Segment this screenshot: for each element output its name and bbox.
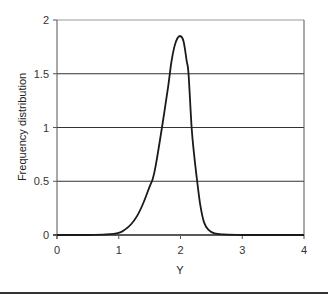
x-axis-title: Y bbox=[176, 264, 184, 276]
x-tick-label: 2 bbox=[177, 244, 183, 256]
x-tick-label: 0 bbox=[54, 244, 60, 256]
y-tick-label: 1 bbox=[43, 122, 49, 134]
y-tick-label: 0.5 bbox=[34, 175, 49, 187]
tick-labels: 00.511.5201234 bbox=[34, 14, 307, 256]
y-tick-label: 1.5 bbox=[34, 68, 49, 80]
gridlines bbox=[57, 74, 304, 182]
bottom-divider bbox=[0, 292, 328, 294]
x-tick-label: 1 bbox=[116, 244, 122, 256]
distribution-curve bbox=[57, 36, 304, 235]
x-tick-label: 4 bbox=[301, 244, 307, 256]
frequency-distribution-chart: 00.511.5201234 Y Frequency distribution bbox=[0, 0, 328, 296]
x-tick-label: 3 bbox=[239, 244, 245, 256]
y-axis-title: Frequency distribution bbox=[16, 73, 28, 181]
y-tick-label: 2 bbox=[43, 14, 49, 26]
y-tick-label: 0 bbox=[43, 229, 49, 241]
axes bbox=[53, 20, 304, 239]
